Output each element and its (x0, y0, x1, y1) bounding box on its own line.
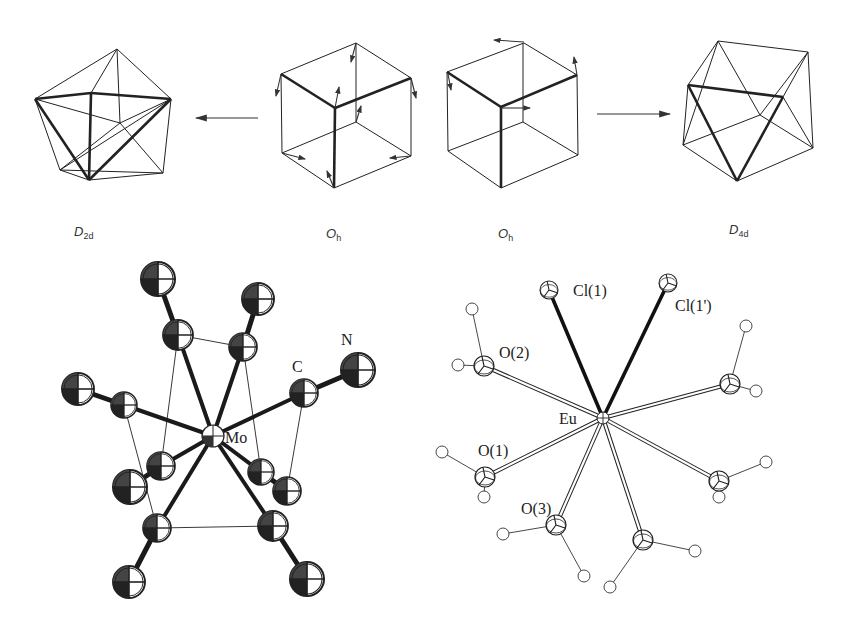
c-atom (111, 392, 137, 418)
eu-atom (597, 412, 609, 424)
h-atom (740, 320, 752, 332)
h-atom (497, 528, 509, 540)
c-atom (290, 379, 318, 407)
mo-atom (202, 425, 224, 447)
n-label: N (341, 331, 353, 348)
label-d4d: D4d (729, 222, 748, 239)
n-atom (242, 283, 274, 315)
o3-atom (546, 515, 566, 535)
c-atom (163, 320, 193, 350)
c-atom (143, 514, 171, 542)
n-atom (273, 477, 301, 505)
n-atom (341, 353, 375, 387)
mo-label: Mo (225, 429, 247, 446)
h-atom (436, 446, 448, 458)
coordination-geometry-figure: D2d Oh Oh D4d (0, 0, 854, 634)
h-atom (689, 545, 701, 557)
n-atom (290, 562, 324, 596)
c-atom (229, 333, 257, 361)
o1-label: O(1) (478, 442, 508, 460)
c-atom (248, 459, 274, 485)
h-atom (452, 359, 464, 371)
o1-atom (475, 467, 495, 487)
h-atom (578, 570, 590, 582)
oh-cube-right (447, 40, 578, 188)
cl1-label: Cl(1) (573, 282, 607, 300)
eu-label: Eu (559, 410, 577, 427)
cl1-atom (540, 281, 558, 299)
cl1p-label: Cl(1') (675, 297, 712, 315)
label-oh-left: Oh (326, 226, 341, 243)
d2d-polyhedron (35, 49, 171, 180)
label-oh-right: Oh (498, 226, 513, 243)
c-atom (147, 452, 175, 480)
h-atom (750, 385, 762, 397)
o-atom (633, 530, 653, 550)
c-atom (258, 511, 288, 541)
eu-aqua-chloro-complex: Cl(1) Cl(1') O(2) Eu O(1) O(3) (436, 274, 772, 593)
h-atom (760, 456, 772, 468)
label-d2d: D2d (74, 224, 93, 241)
h-atom (478, 491, 490, 503)
o2-atom (474, 356, 494, 376)
n-atom (141, 262, 175, 296)
o3-label: O(3) (521, 500, 551, 518)
c-label: C (292, 358, 303, 375)
n-atom (113, 566, 145, 598)
oh-cube-left (276, 43, 416, 188)
mo-cyanide-complex: Mo C N (62, 262, 375, 598)
o-atom (720, 374, 740, 394)
h-atom (604, 581, 616, 593)
n-atom (113, 470, 147, 504)
h-atom (713, 491, 725, 503)
o2-label: O(2) (499, 344, 529, 362)
d4d-polyhedron (683, 41, 813, 181)
n-atom (62, 373, 94, 405)
cl1p-atom (659, 274, 677, 292)
h-atom (466, 303, 478, 315)
o-atom (709, 471, 729, 491)
